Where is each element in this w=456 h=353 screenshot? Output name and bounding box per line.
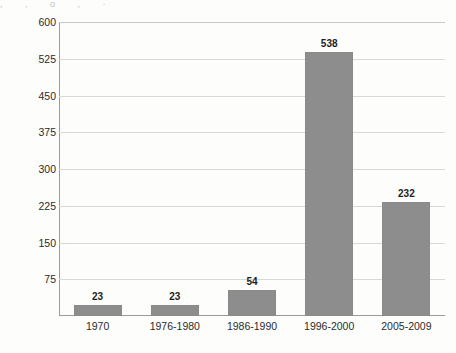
x-axis-tick-label: 1996-2000 [304, 320, 354, 332]
bar-value-label: 538 [305, 38, 353, 49]
y-axis-tick-label: 600 [8, 16, 56, 28]
bar-value-label: 54 [228, 276, 276, 287]
bar-group: 538 [305, 22, 353, 316]
bar-value-label: 232 [382, 188, 430, 199]
bar [74, 305, 122, 316]
bar [228, 290, 276, 316]
x-axis-tick-label: 1986-1990 [227, 320, 277, 332]
bar-chart-figure: , , o , · Ratio of CEO to reporter salar… [0, 0, 456, 353]
plot-area: 232354538232 [59, 22, 445, 316]
y-axis-tick-label: 75 [8, 273, 56, 285]
x-axis-tick-label: 2005-2009 [381, 320, 431, 332]
y-axis-tick-label: 225 [8, 200, 56, 212]
bar [382, 202, 430, 316]
bar-group: 23 [151, 22, 199, 316]
y-axis-tick-label: 375 [8, 126, 56, 138]
bar-value-label: 23 [74, 291, 122, 302]
bar [305, 52, 353, 316]
scan-artifact-text: , , o , · [0, 0, 456, 10]
bar [151, 305, 199, 316]
x-axis-tick-label: 1970 [86, 320, 109, 332]
y-axis-tick-label: 300 [8, 163, 56, 175]
x-axis-tick-label: 1976-1980 [150, 320, 200, 332]
y-axis-tick-label: 450 [8, 90, 56, 102]
bar-group: 232 [382, 22, 430, 316]
bar-group: 54 [228, 22, 276, 316]
x-axis-tick-labels: 19701976-19801986-19901996-20002005-2009 [59, 320, 445, 340]
y-axis-tick-label: 150 [8, 237, 56, 249]
bars: 232354538232 [59, 22, 445, 316]
y-axis-tick-labels: 75150225300375450525600 [0, 0, 60, 353]
bar-value-label: 23 [151, 291, 199, 302]
y-axis-tick-label: 525 [8, 53, 56, 65]
bar-group: 23 [74, 22, 122, 316]
